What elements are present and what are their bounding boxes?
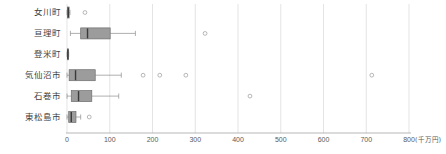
category-labels-group: 女川町亘理町登米町気仙沼市石巻市東松島市 (25, 7, 61, 122)
outlier-point (203, 32, 207, 36)
outlier-point (87, 115, 91, 119)
category-label-東松島市: 東松島市 (25, 112, 61, 122)
xtick-label-0: 0 (65, 136, 69, 143)
category-label-亘理町: 亘理町 (34, 28, 61, 38)
boxplot-series-気仙沼市 (67, 70, 374, 81)
xtick-label-500: 500 (275, 136, 287, 143)
outlier-point (158, 73, 162, 77)
category-label-気仙沼市: 気仙沼市 (25, 70, 61, 80)
unit-label-group: (千万円) (415, 135, 441, 144)
outlier-point (83, 11, 87, 15)
xtick-label-800: 800 (403, 136, 415, 143)
xtick-labels-group: 0100200300400500600700800 (65, 136, 415, 143)
xtick-label-200: 200 (147, 136, 159, 143)
outlier-point (248, 94, 252, 98)
category-label-石巻市: 石巻市 (34, 91, 61, 101)
xtick-label-700: 700 (360, 136, 372, 143)
category-label-女川町: 女川町 (34, 7, 61, 17)
category-label-登米町: 登米町 (34, 49, 61, 59)
xtick-label-300: 300 (189, 136, 201, 143)
boxplot-series-女川町 (67, 7, 87, 18)
x-axis-unit-label: (千万円) (415, 135, 441, 144)
boxplot-series-亘理町 (70, 28, 207, 39)
box-iqr (69, 70, 95, 81)
boxplot-series-東松島市 (67, 112, 91, 123)
outlier-point (141, 73, 145, 77)
boxplot-series-登米町 (67, 49, 69, 60)
xtick-label-600: 600 (318, 136, 330, 143)
xtick-label-100: 100 (104, 136, 116, 143)
boxplot-svg: 女川町亘理町登米町気仙沼市石巻市東松島市 0100200300400500600… (0, 0, 446, 154)
outlier-point (370, 73, 374, 77)
box-iqr (71, 91, 92, 102)
boxes-group (67, 7, 374, 123)
box-iqr (81, 28, 110, 39)
boxplot-series-石巻市 (67, 91, 252, 102)
box-iqr (69, 112, 76, 123)
boxplot-chart: 女川町亘理町登米町気仙沼市石巻市東松島市 0100200300400500600… (0, 0, 446, 154)
xtick-label-400: 400 (232, 136, 244, 143)
gridlines-group (67, 4, 409, 133)
outlier-point (184, 73, 188, 77)
